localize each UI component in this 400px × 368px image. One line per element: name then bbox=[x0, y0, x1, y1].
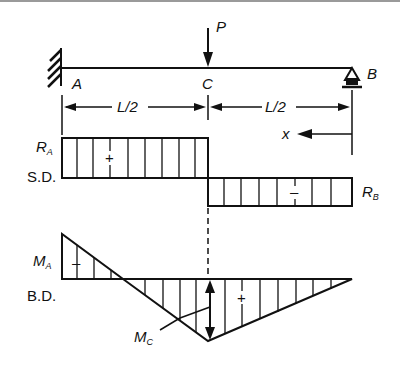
x-axis-label: x bbox=[281, 125, 290, 142]
point-c-label: C bbox=[202, 75, 213, 92]
moment-positive-sign: + bbox=[237, 289, 246, 306]
span-right-label: L/2 bbox=[265, 98, 287, 115]
x-axis-arrow-icon bbox=[297, 129, 352, 139]
load-label: P bbox=[216, 18, 226, 35]
ma-label: MA bbox=[33, 252, 52, 271]
shear-negative-sign: – bbox=[290, 183, 299, 200]
load-arrow-icon bbox=[203, 28, 213, 67]
shear-diagram-label: S.D. bbox=[27, 168, 56, 185]
rb-label: RB bbox=[362, 183, 379, 202]
beam-diagram: P A C B L/2 L/2 x RA S.D. + – RB MA B.D.… bbox=[0, 0, 400, 368]
support-a-label: A bbox=[71, 75, 82, 92]
ra-label: RA bbox=[36, 138, 53, 157]
support-b-label: B bbox=[367, 65, 377, 82]
span-left-label: L/2 bbox=[117, 98, 139, 115]
moment-negative-sign: – bbox=[72, 254, 81, 271]
fixed-support-icon bbox=[48, 48, 61, 87]
roller-support-icon bbox=[342, 68, 362, 87]
moment-diagram-label: B.D. bbox=[27, 287, 56, 304]
mc-label: MC bbox=[134, 328, 154, 347]
moment-diagram bbox=[62, 234, 352, 341]
shear-positive-sign: + bbox=[105, 149, 114, 166]
